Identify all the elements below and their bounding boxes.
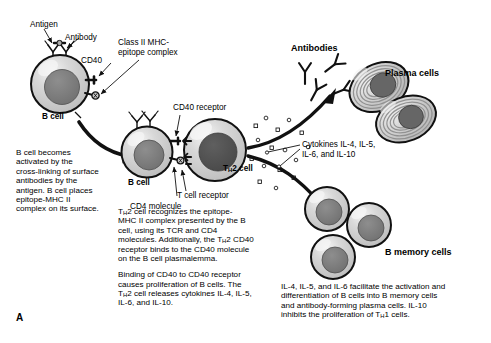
text-block-left: B cell becomesactivated by thecross-link… (16, 148, 132, 214)
label-t-cell-receptor: T cell receptor (177, 191, 229, 201)
free-antibody-icons (299, 54, 354, 103)
label-mhc-complex-2: epitope complex (118, 48, 178, 58)
label-b-cell-resting: B cell (42, 112, 64, 122)
panel-label: A (16, 312, 23, 324)
text-line: MHC II complex presented by the B (118, 216, 293, 225)
label-plasma-cells: Plasma cells (385, 68, 439, 78)
label-th2-cell: TH2 cell (223, 164, 253, 174)
label-antigen: Antigen (30, 20, 58, 30)
label-antibody: Antibody (65, 33, 97, 43)
text-line: inhibits the proliferation of TH1 cells. (281, 310, 489, 319)
text-line: and antibody-forming plasma cells. IL-10 (281, 301, 489, 310)
cytokine-particles (250, 116, 310, 190)
text-line: activated by the (16, 157, 132, 166)
text-line: B cell becomes (16, 148, 132, 157)
antigen-icon (54, 40, 65, 45)
text-line: Binding of CD40 to CD40 receptor (118, 270, 293, 279)
text-line: differentiation of B cells into B memory… (281, 291, 489, 300)
text-line: epitope-MHC II (16, 195, 132, 204)
text-line: molecules. Additionally, the TH2 CD40 (118, 235, 293, 244)
text-line: TH2 cell recognizes the epitope- (118, 207, 293, 216)
text-line: cell, using its TCR and CD4 (118, 226, 293, 235)
text-line: receptor binds to the CD40 molecule (118, 245, 293, 254)
b-memory-cell-2 (347, 203, 391, 247)
label-cd40: CD40 (81, 56, 102, 66)
text-line: TH2 cell releases cytokines IL-4, IL-5, (118, 289, 293, 298)
text-line: causes proliferation of B cells. The (118, 280, 293, 289)
label-cytokines-2: IL-6, and IL-10 (302, 150, 355, 160)
text-line: IL-6, and IL-10. (118, 298, 293, 307)
b-memory-cell-3 (311, 235, 355, 279)
text-line: complex on its surface. (16, 204, 132, 213)
text-block-right: IL-4, IL-5, and IL-6 facilitate the acti… (281, 282, 489, 320)
text-line: cross-linking of surface (16, 167, 132, 176)
text-line: antigen. B cell places (16, 186, 132, 195)
text-block-center: TH2 cell recognizes the epitope-MHC II c… (118, 207, 293, 308)
label-b-memory-cells: B memory cells (385, 247, 452, 257)
text-line: antibodies by the (16, 176, 132, 185)
paragraph-gap (118, 263, 293, 270)
label-cytokines-1: Cytokines IL-4, IL-5, (302, 140, 375, 150)
th2-cell (174, 115, 246, 196)
b-memory-cell-1 (305, 187, 349, 231)
label-mhc-complex-1: Class II MHC- (118, 38, 169, 48)
text-line: IL-4, IL-5, and IL-6 facilitate the acti… (281, 282, 489, 291)
text-line: on the B cell plasmalemma. (118, 254, 293, 263)
label-cd40-receptor: CD40 receptor (173, 103, 226, 113)
diagram-canvas: Antigen Antibody CD40 Class II MHC- epit… (0, 0, 491, 343)
label-antibodies: Antibodies (291, 43, 338, 53)
